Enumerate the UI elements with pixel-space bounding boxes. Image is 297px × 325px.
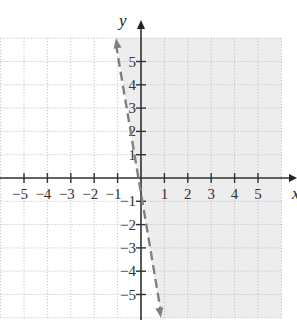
coordinate-plane: −5−4−3−2−112345−5−4−3−2−112345 y x xyxy=(0,0,297,325)
x-tick-label: 3 xyxy=(207,186,215,202)
x-tick-label: −5 xyxy=(12,186,28,202)
y-tick-label: −3 xyxy=(120,240,136,256)
x-tick-label: −4 xyxy=(35,186,51,202)
y-tick-label: 5 xyxy=(129,54,137,70)
y-axis-label: y xyxy=(117,11,127,30)
x-tick-label: 1 xyxy=(161,186,169,202)
y-tick-label: −4 xyxy=(120,263,136,279)
x-axis-arrow-icon xyxy=(289,174,297,182)
y-axis-arrow-icon xyxy=(137,20,145,29)
y-tick-label: −2 xyxy=(120,217,136,233)
y-tick-label: −5 xyxy=(120,287,136,303)
y-tick-label: 4 xyxy=(129,77,137,93)
x-tick-label: −2 xyxy=(82,186,98,202)
y-tick-label: 3 xyxy=(129,100,137,116)
x-tick-label: 4 xyxy=(231,186,239,202)
x-axis-label: x xyxy=(291,184,297,203)
y-tick-label: −1 xyxy=(120,193,136,209)
x-tick-label: −3 xyxy=(59,186,75,202)
x-tick-label: 2 xyxy=(184,186,192,202)
x-tick-label: 5 xyxy=(254,186,262,202)
